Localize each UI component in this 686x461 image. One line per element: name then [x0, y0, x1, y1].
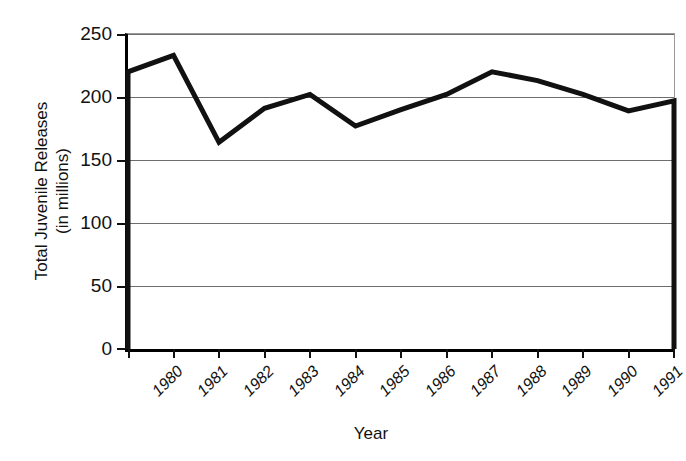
x-tick-label-1983: 1983 [285, 363, 321, 399]
chart-figure: Total Juvenile Releases (in millions) 25… [0, 0, 686, 461]
x-tick-label-1985: 1985 [376, 363, 412, 399]
x-tick-label-1981: 1981 [194, 363, 230, 399]
x-tick-label-1984: 1984 [331, 363, 367, 399]
x-tick-label-1986: 1986 [422, 363, 458, 399]
x-axis-tick-labels: 1980 1981 1982 1983 1984 1985 1986 1987 … [0, 0, 686, 461]
x-tick-label-1989: 1989 [558, 363, 594, 399]
x-axis-title: Year [0, 424, 686, 444]
x-tick-label-1991: 1991 [649, 363, 685, 399]
x-tick-label-1980: 1980 [149, 363, 185, 399]
x-tick-label-1982: 1982 [240, 363, 276, 399]
x-tick-label-1987: 1987 [467, 363, 503, 399]
x-tick-label-1990: 1990 [604, 363, 640, 399]
x-tick-label-1988: 1988 [513, 363, 549, 399]
